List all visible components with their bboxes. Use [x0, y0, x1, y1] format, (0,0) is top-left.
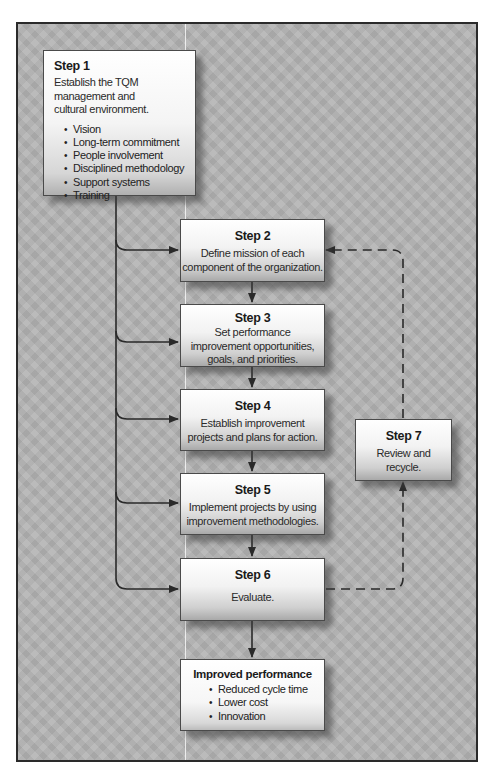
step2-line2: component of the organization.	[181, 261, 324, 275]
step1-item: People involvement	[64, 149, 187, 162]
step1-desc-line2: management and	[54, 90, 187, 104]
step5-title: Step 5	[181, 483, 324, 497]
step4-line2: projects and plans for action.	[181, 431, 324, 445]
step1-item: Long-term commitment	[64, 136, 187, 149]
step6-box: Step 6 Evaluate.	[180, 558, 325, 621]
step7-title: Step 7	[356, 429, 451, 443]
step6-line1: Evaluate.	[181, 591, 324, 605]
step5-line1: Implement projects by using	[181, 501, 324, 515]
step7-line1: Review and	[356, 447, 451, 461]
step3-title: Step 3	[181, 311, 324, 325]
step1-item: Training	[64, 189, 187, 202]
step1-desc-line3: cultural environment.	[54, 103, 187, 117]
step1-item: Support systems	[64, 176, 187, 189]
step2-box: Step 2 Define mission of each component …	[180, 219, 325, 282]
step5-box: Step 5 Implement projects by using impro…	[180, 473, 325, 535]
branch-to-step2	[116, 240, 178, 250]
outcome-title: Improved performance	[181, 668, 324, 680]
outcome-item: Lower cost	[209, 696, 324, 709]
step6-title: Step 6	[181, 568, 324, 582]
step5-line2: improvement methodologies.	[181, 515, 324, 529]
branch-to-step3	[116, 331, 178, 342]
step1-box: Step 1 Establish the TQM management and …	[43, 50, 196, 196]
step3-line1: Set performance	[181, 326, 324, 340]
branch-to-step4	[116, 408, 178, 419]
dashed-7-to-2	[326, 250, 403, 418]
trunk-line	[116, 196, 178, 589]
step4-title: Step 4	[181, 399, 324, 413]
outcome-list: Reduced cycle time Lower cost Innovation	[181, 683, 324, 723]
step1-desc-line1: Establish the TQM	[54, 76, 187, 90]
step1-item: Disciplined methodology	[64, 162, 187, 175]
step3-box: Step 3 Set performance improvement oppor…	[180, 304, 325, 367]
step7-box: Step 7 Review and recycle.	[355, 419, 452, 481]
step1-title: Step 1	[54, 59, 187, 73]
step3-line2: improvement opportunities,	[181, 340, 324, 354]
branch-to-step5	[116, 492, 178, 503]
step7-line2: recycle.	[356, 461, 451, 475]
step2-line1: Define mission of each	[181, 247, 324, 261]
dashed-6-to-7	[326, 482, 403, 589]
step1-item: Vision	[64, 123, 187, 136]
outcome-item: Reduced cycle time	[209, 683, 324, 696]
step3-line3: goals, and priorities.	[181, 353, 324, 367]
step1-list: Vision Long-term commitment People invol…	[54, 123, 187, 203]
outcome-item: Innovation	[209, 710, 324, 723]
step4-box: Step 4 Establish improvement projects an…	[180, 389, 325, 451]
outcome-box: Improved performance Reduced cycle time …	[180, 659, 325, 731]
step4-line1: Establish improvement	[181, 417, 324, 431]
step2-title: Step 2	[181, 229, 324, 243]
